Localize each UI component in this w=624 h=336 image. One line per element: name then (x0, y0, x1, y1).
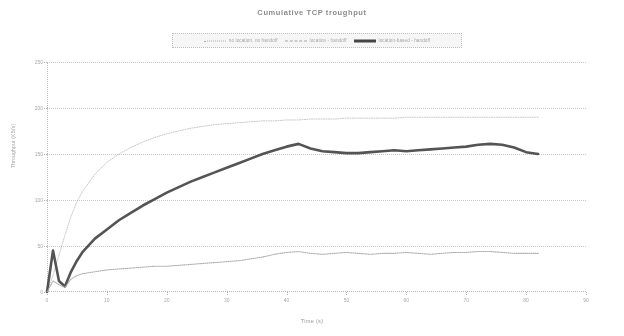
legend-label-2: location-based - handoff (379, 38, 431, 43)
chart-page: Cumulative TCP troughput no location, no… (0, 0, 624, 336)
y-tick-label: 0 (40, 289, 43, 295)
x-tick-mark (466, 292, 467, 295)
series-line (47, 144, 538, 292)
y-tick-label: 150 (35, 151, 43, 157)
chart-legend: no location, no handoff location - hando… (172, 33, 462, 48)
y-tick-label: 250 (35, 59, 43, 65)
x-tick-label: 20 (164, 297, 170, 303)
legend-item-0: no location, no handoff (204, 38, 278, 43)
chart-title: Cumulative TCP troughput (0, 8, 624, 17)
x-tick-mark (227, 292, 228, 295)
y-tick-label: 100 (35, 197, 43, 203)
x-tick-mark (346, 292, 347, 295)
x-tick-mark (586, 292, 587, 295)
y-tick-label: 50 (37, 243, 43, 249)
legend-item-2: location-based - handoff (354, 38, 431, 43)
x-tick-label: 60 (404, 297, 410, 303)
y-tick-label: 200 (35, 105, 43, 111)
x-tick-label: 30 (224, 297, 230, 303)
legend-item-1: location - handoff (285, 38, 347, 43)
x-tick-mark (406, 292, 407, 295)
legend-label-1: location - handoff (310, 38, 347, 43)
x-tick-label: 10 (104, 297, 110, 303)
plot-area: 050100150200250 0102030405060708090 (47, 62, 586, 292)
series-lines (47, 62, 586, 292)
series-line (47, 117, 538, 292)
x-tick-mark (287, 292, 288, 295)
legend-label-0: no location, no handoff (229, 38, 278, 43)
dashed-line-swatch (285, 38, 307, 43)
solid-line-swatch (354, 38, 376, 43)
x-tick-label: 0 (46, 297, 49, 303)
x-tick-mark (107, 292, 108, 295)
x-tick-label: 90 (583, 297, 589, 303)
x-axis-label: Time (s) (0, 318, 624, 324)
dotted-line-swatch (204, 38, 226, 43)
y-axis-label: Throughput (KB/s) (10, 124, 16, 168)
series-line (47, 252, 538, 292)
x-tick-mark (526, 292, 527, 295)
x-tick-label: 80 (523, 297, 529, 303)
x-tick-mark (167, 292, 168, 295)
x-tick-label: 50 (344, 297, 350, 303)
x-tick-label: 40 (284, 297, 290, 303)
x-tick-label: 70 (463, 297, 469, 303)
